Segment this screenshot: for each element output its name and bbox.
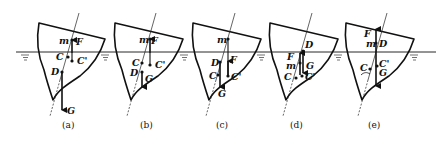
label-c: C [360,62,368,73]
point-c [294,76,297,79]
panel-c: m F D C C' G (c) [192,13,261,130]
diagram-svg: m F C C' D G (a) m F C C' D G (b) [0,0,445,144]
point-c-prime [300,74,303,77]
point-d [60,70,63,73]
point-m [298,61,301,64]
label-c-prime: C' [305,71,315,82]
point-c [140,61,143,64]
label-c-prime: C' [231,71,241,82]
point-c [216,73,219,76]
panel-d: D F m G C C' (d) [269,13,338,130]
label-c: C [56,51,64,62]
label-c-prime: C' [77,55,87,66]
point-c [368,67,371,70]
water-ripple-icon [101,55,109,60]
caption-d: (d) [290,120,303,130]
label-d: D [210,57,220,68]
label-m: m [286,60,296,71]
label-m: m [366,38,376,49]
label-g: G [67,105,75,116]
point-c-prime [70,59,73,62]
point-c [66,55,69,58]
symmetry-axis [137,13,156,80]
label-c: C [209,70,217,81]
label-g: G [379,67,387,78]
label-d: D [378,38,388,49]
label-g: G [145,73,153,84]
panel-a: m F C C' D G (a) [38,13,105,130]
ship-stability-diagram: m F C C' D G (a) m F C C' D G (b) [0,0,445,144]
label-d: D [50,66,60,77]
label-d: D [304,39,314,50]
water-ripple-icon [180,55,188,60]
label-g: G [218,88,226,99]
water-ripple-icon [334,55,342,60]
caption-e: (e) [368,120,380,130]
symmetry-axis [216,13,235,80]
panel-e: F m D C C' G (e) [345,13,414,130]
label-m: m [217,34,227,45]
water-ripple-icon [410,55,418,60]
panel-b: m F C C' D G (b) [114,13,183,130]
point-c-prime [226,74,229,77]
label-c-prime: C' [155,59,165,70]
point-m [70,38,73,41]
label-f: F [75,36,84,47]
point-d [140,70,143,73]
caption-b: (b) [140,120,153,130]
label-c: C [284,71,292,82]
caption-a: (a) [62,120,74,130]
point-c-prime [148,63,151,66]
water-ripple-icon [257,55,265,60]
label-m: m [139,34,149,45]
water-ripple-icon [21,55,29,60]
label-f: F [150,35,159,46]
label-m: m [59,35,69,46]
caption-c: (c) [216,120,228,130]
label-g: G [306,60,314,71]
label-f: F [229,54,238,65]
label-d: D [129,67,139,78]
